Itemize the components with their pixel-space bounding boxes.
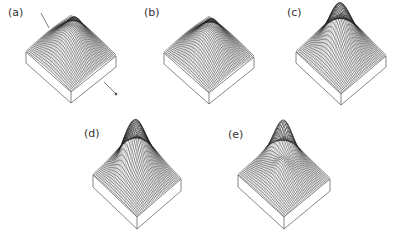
wireframe-mesh (238, 120, 330, 216)
surface-plot (0, 0, 406, 250)
surface-panel-e: (e) (0, 0, 406, 250)
